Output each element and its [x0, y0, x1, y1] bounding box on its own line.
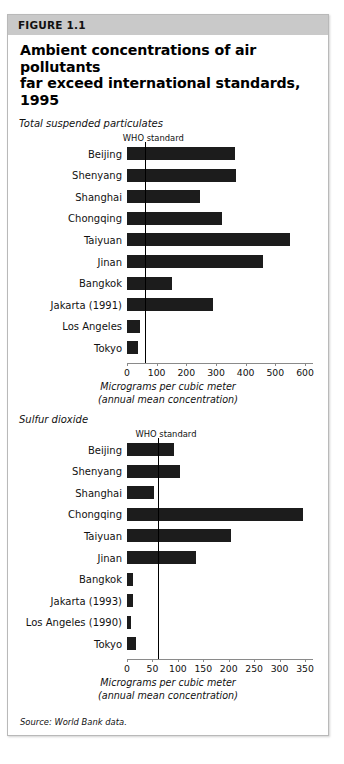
x-axis-tick-label: 100 — [142, 367, 172, 378]
axis-caption-tsp: Micrograms per cubic meter (annual mean … — [8, 381, 328, 406]
category-label: Jinan — [8, 258, 122, 268]
category-label: Los Angeles (1990) — [8, 618, 122, 628]
category-label: Shenyang — [8, 467, 122, 477]
category-label: Chongqing — [8, 214, 122, 224]
category-label: Bangkok — [8, 279, 122, 289]
x-axis-tick — [246, 363, 247, 366]
source-note: Source: World Bank data. — [20, 717, 127, 727]
x-axis-tick — [127, 363, 128, 366]
bar — [127, 465, 180, 478]
bar — [127, 529, 231, 542]
bar — [127, 551, 196, 564]
x-axis-tick — [216, 363, 217, 366]
category-label: Taiyuan — [8, 236, 122, 246]
bar — [127, 212, 222, 225]
x-axis-tick — [254, 659, 255, 662]
figure-title-line-2: far exceed international standards, 1995 — [20, 75, 316, 108]
category-label: Shenyang — [8, 171, 122, 181]
category-label: Tokyo — [8, 344, 122, 354]
figure-title-line-1: Ambient concentrations of air pollutants — [20, 42, 316, 75]
category-label: Beijing — [8, 446, 122, 456]
panel-title-so2: Sulfur dioxide — [8, 406, 328, 425]
x-axis-tick-label: 300 — [201, 367, 231, 378]
category-label: Los Angeles — [8, 322, 122, 332]
axis-caption-so2: Micrograms per cubic meter (annual mean … — [8, 677, 328, 702]
x-axis-tick-label: 400 — [231, 367, 261, 378]
x-axis-tick — [229, 659, 230, 662]
bar — [127, 637, 136, 650]
x-axis-tick — [152, 659, 153, 662]
category-label: Taiyuan — [8, 532, 122, 542]
bar — [127, 594, 133, 607]
figure-card: FIGURE 1.1 Ambient concentrations of air… — [7, 14, 329, 736]
category-label: Bangkok — [8, 575, 122, 585]
x-axis-tick — [305, 659, 306, 662]
who-standard-line — [145, 142, 146, 363]
bar — [127, 147, 235, 160]
axis-caption-line-1: Micrograms per cubic meter — [8, 677, 328, 690]
category-label: Shanghai — [8, 193, 122, 203]
x-axis-tick — [127, 659, 128, 662]
axis-caption-line-2: (annual mean concentration) — [8, 394, 328, 407]
x-axis-tick-label: 0 — [112, 367, 142, 378]
bar — [127, 169, 236, 182]
axis-caption-line-1: Micrograms per cubic meter — [8, 381, 328, 394]
chart-plot-tsp: WHO standardBeijingShenyangShanghaiChong… — [8, 133, 328, 381]
bar — [127, 341, 138, 354]
x-axis-tick-label: 200 — [171, 367, 201, 378]
axis-caption-line-2: (annual mean concentration) — [8, 690, 328, 703]
bar — [127, 443, 174, 456]
category-label: Chongqing — [8, 510, 122, 520]
x-axis-tick — [186, 363, 187, 366]
x-axis-tick — [203, 659, 204, 662]
figure-number-label: FIGURE 1.1 — [18, 19, 86, 31]
x-axis-tick-label: 600 — [290, 367, 320, 378]
bar — [127, 190, 200, 203]
panel-title-tsp: Total suspended particulates — [8, 110, 328, 129]
category-label: Beijing — [8, 150, 122, 160]
x-axis-tick-label: 350 — [290, 663, 320, 674]
bar — [127, 616, 131, 629]
category-label: Jakarta (1993) — [8, 597, 122, 607]
figure-title-block: Ambient concentrations of air pollutants… — [8, 35, 328, 110]
panel-total-suspended-particulates: Total suspended particulates WHO standar… — [8, 110, 328, 406]
x-axis-tick — [275, 363, 276, 366]
chart-plot-so2: WHO standardBeijingShenyangShanghaiChong… — [8, 429, 328, 677]
bar — [127, 298, 213, 311]
figure-header-band: FIGURE 1.1 — [8, 15, 328, 35]
category-label: Tokyo — [8, 640, 122, 650]
bar — [127, 255, 263, 268]
x-axis-tick — [157, 363, 158, 366]
who-standard-label: WHO standard — [136, 429, 197, 439]
bar — [127, 486, 154, 499]
bar — [127, 320, 140, 333]
x-axis-tick-label: 500 — [260, 367, 290, 378]
x-axis-tick — [305, 363, 306, 366]
who-standard-label: WHO standard — [123, 133, 184, 143]
x-axis-tick — [280, 659, 281, 662]
bar — [127, 233, 290, 246]
category-label: Jakarta (1991) — [8, 301, 122, 311]
bar — [127, 508, 303, 521]
who-standard-line — [158, 438, 159, 659]
x-axis-line — [127, 659, 313, 660]
panel-sulfur-dioxide: Sulfur dioxide WHO standardBeijingShenya… — [8, 406, 328, 702]
category-label: Shanghai — [8, 489, 122, 499]
x-axis-tick — [178, 659, 179, 662]
bar — [127, 277, 172, 290]
bar — [127, 573, 133, 586]
category-label: Jinan — [8, 554, 122, 564]
x-axis-line — [127, 363, 313, 364]
